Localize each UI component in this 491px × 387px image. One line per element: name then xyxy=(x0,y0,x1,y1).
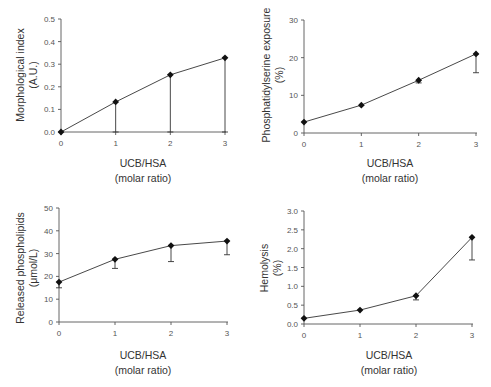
x-axis-unit: (molar ratio) xyxy=(361,364,418,376)
plot-area: 01020300123 xyxy=(289,16,479,149)
x-tick-label: 3 xyxy=(223,139,228,148)
y-tick-label: 30 xyxy=(289,16,298,25)
y-axis-title: Released phospholipids xyxy=(14,212,26,324)
x-axis-unit: (molar ratio) xyxy=(362,172,419,184)
y-tick-label: 0.4 xyxy=(44,38,56,47)
data-point-marker xyxy=(112,256,119,263)
y-axis-title: Hemolysis xyxy=(258,244,270,292)
y-tick-label: 0 xyxy=(294,129,299,138)
x-axis-title: UCB/HSA xyxy=(120,157,167,169)
y-tick-label: 10 xyxy=(289,91,298,100)
y-axis-title: Morphological index xyxy=(14,28,26,122)
y-tick-label: 2.0 xyxy=(287,245,299,254)
y-tick-label: 20 xyxy=(289,54,298,63)
x-axis-title: UCB/HSA xyxy=(120,349,167,361)
x-axis-unit: (molar ratio) xyxy=(115,172,172,184)
y-axis-title: Phosphatidylserine exposure xyxy=(260,7,272,142)
x-tick-label: 1 xyxy=(358,331,363,340)
data-point-marker xyxy=(167,71,174,78)
y-tick-label: 30 xyxy=(44,250,53,259)
data-point-marker xyxy=(301,119,308,126)
figure-panel-grid: Morphological index (A.U.) UCB/HSA (mola… xyxy=(0,0,491,387)
y-tick-label: 3.0 xyxy=(287,207,299,216)
data-line xyxy=(304,237,472,318)
x-tick-label: 1 xyxy=(113,329,118,338)
y-axis-unit: (μmol/L) xyxy=(27,249,39,288)
x-tick-label: 0 xyxy=(302,331,307,340)
data-point-marker xyxy=(58,129,65,136)
x-tick-label: 2 xyxy=(169,329,174,338)
data-point-marker xyxy=(301,315,308,322)
y-axis-unit: (%) xyxy=(271,260,283,276)
plot-area: 0.00.51.01.52.02.53.00123 xyxy=(287,207,476,340)
data-line xyxy=(304,54,476,122)
x-axis-title: UCB/HSA xyxy=(366,349,413,361)
chart-hemolysis: Hemolysis (%) UCB/HSA (molar ratio) 0.00… xyxy=(258,207,475,376)
x-tick-label: 3 xyxy=(474,140,479,149)
x-tick-label: 1 xyxy=(113,139,118,148)
x-tick-label: 0 xyxy=(57,329,62,338)
data-line xyxy=(59,241,227,282)
x-tick-label: 3 xyxy=(225,329,230,338)
y-tick-label: 0.1 xyxy=(44,105,56,114)
y-tick-label: 40 xyxy=(44,227,53,236)
plot-area: 0.00.10.20.30.40.50123 xyxy=(44,15,229,148)
y-tick-label: 10 xyxy=(44,295,53,304)
y-axis-unit: (%) xyxy=(273,67,285,83)
data-line xyxy=(61,58,225,132)
data-point-marker xyxy=(357,307,364,314)
y-tick-label: 0.0 xyxy=(287,320,299,329)
x-tick-label: 0 xyxy=(302,140,307,149)
data-point-marker xyxy=(56,279,63,286)
x-tick-label: 0 xyxy=(59,139,64,148)
y-tick-label: 0.3 xyxy=(44,60,56,69)
plot-area: 010203040500123 xyxy=(44,204,230,338)
y-tick-label: 2.5 xyxy=(287,226,299,235)
data-point-marker xyxy=(222,54,229,61)
data-point-marker xyxy=(358,102,365,109)
y-tick-label: 1.0 xyxy=(287,282,299,291)
y-tick-label: 50 xyxy=(44,204,53,213)
chart-phosphatidylserine-exposure: Phosphatidylserine exposure (%) UCB/HSA … xyxy=(260,7,479,184)
x-tick-label: 2 xyxy=(416,140,421,149)
x-tick-label: 2 xyxy=(414,331,419,340)
x-tick-label: 3 xyxy=(470,331,475,340)
x-axis-title: UCB/HSA xyxy=(367,157,414,169)
data-point-marker xyxy=(168,242,175,249)
y-tick-label: 20 xyxy=(44,272,53,281)
x-tick-label: 2 xyxy=(168,139,173,148)
y-tick-label: 0.5 xyxy=(44,15,56,24)
y-tick-label: 0.2 xyxy=(44,83,56,92)
x-axis-unit: (molar ratio) xyxy=(115,364,172,376)
y-axis-unit: (A.U.) xyxy=(27,61,39,88)
data-point-marker xyxy=(473,51,480,58)
y-tick-label: 0.5 xyxy=(287,301,299,310)
y-tick-label: 1.5 xyxy=(287,264,299,273)
chart-morphological-index: Morphological index (A.U.) UCB/HSA (mola… xyxy=(14,15,228,184)
data-point-marker xyxy=(224,238,231,245)
y-tick-label: 0 xyxy=(49,318,54,327)
data-point-marker xyxy=(112,99,119,106)
chart-released-phospholipids: Released phospholipids (μmol/L) UCB/HSA … xyxy=(14,204,230,376)
x-tick-label: 1 xyxy=(359,140,364,149)
y-tick-label: 0.0 xyxy=(44,128,56,137)
